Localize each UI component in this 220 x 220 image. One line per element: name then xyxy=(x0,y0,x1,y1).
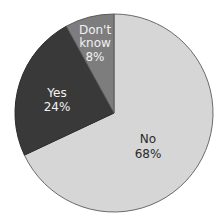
label-yes-pct: 24% xyxy=(44,100,71,114)
label-no: No xyxy=(140,132,156,146)
label-dont-know-line1: Don't xyxy=(79,23,111,37)
label-dont-know-line2: know xyxy=(79,36,111,50)
label-no-pct: 68% xyxy=(135,147,162,161)
label-yes: Yes xyxy=(46,86,66,100)
label-dont-know-pct: 8% xyxy=(85,50,104,64)
pie-chart: Don't know 8% Yes 24% No 68% xyxy=(0,0,220,220)
